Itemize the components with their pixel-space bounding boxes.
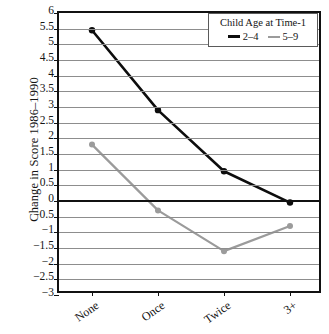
x-tick-label: 3+ <box>254 299 299 334</box>
plot-area <box>57 11 321 293</box>
y-tick-label: 5.5 <box>14 21 54 32</box>
x-tick-label: Twice <box>188 299 233 334</box>
gridline <box>59 107 319 108</box>
gridline <box>59 248 319 249</box>
y-tick-label: 4 <box>14 68 54 79</box>
legend-label: 2–4 <box>243 31 259 42</box>
gridline <box>59 76 319 77</box>
gridline <box>59 138 319 139</box>
x-tick-label: Once <box>122 299 167 334</box>
y-tick-mark <box>54 217 59 218</box>
y-tick-mark <box>54 44 59 45</box>
zero-gridline <box>59 200 319 202</box>
legend-title: Child Age at Time-1 <box>213 17 313 29</box>
y-tick-label: −1 <box>14 224 54 235</box>
y-tick-label: −2 <box>14 256 54 267</box>
legend-label: 5–9 <box>283 31 299 42</box>
gridline <box>59 170 319 171</box>
y-tick-mark <box>54 29 59 30</box>
y-tick-mark <box>54 185 59 186</box>
x-axis-tick-labels: NoneOnceTwice3+ <box>57 293 321 334</box>
y-tick-label: 0 <box>14 193 54 204</box>
y-tick-mark <box>54 170 59 171</box>
y-tick-label: 3 <box>14 99 54 110</box>
data-point-marker <box>221 248 227 254</box>
line-chart: Change in Score 1986–1990 65.554.543.532… <box>0 0 329 334</box>
y-tick-mark <box>54 60 59 61</box>
plot-inner <box>59 13 319 291</box>
legend-entry: 2–4 <box>228 31 259 42</box>
gridline <box>59 91 319 92</box>
gridline <box>59 154 319 155</box>
y-tick-label: 4.5 <box>14 52 54 63</box>
gridline <box>59 185 319 186</box>
gridline <box>59 232 319 233</box>
series-line <box>92 145 290 252</box>
y-axis-tick-labels: 65.554.543.532.521.510.50−0.5−1−1.5−2−2.… <box>14 11 54 293</box>
legend-swatch-icon <box>268 36 280 38</box>
y-tick-label: 1 <box>14 162 54 173</box>
y-tick-mark <box>54 154 59 155</box>
legend: Child Age at Time-1 2–45–9 <box>208 13 318 47</box>
y-tick-mark <box>54 232 59 233</box>
y-tick-mark <box>54 13 59 14</box>
data-point-marker <box>89 142 95 148</box>
y-tick-mark <box>54 138 59 139</box>
y-tick-label: 2.5 <box>14 115 54 126</box>
legend-entry: 5–9 <box>268 31 299 42</box>
gridline <box>59 217 319 218</box>
gridline <box>59 123 319 124</box>
data-point-marker <box>287 223 293 229</box>
legend-swatch-icon <box>228 35 240 38</box>
y-tick-mark <box>54 76 59 77</box>
y-tick-mark <box>54 91 59 92</box>
gridline <box>59 264 319 265</box>
y-tick-mark <box>54 264 59 265</box>
y-tick-label: 3.5 <box>14 83 54 94</box>
y-tick-label: −0.5 <box>14 209 54 220</box>
data-point-marker <box>155 207 161 213</box>
y-tick-mark <box>54 279 59 280</box>
y-tick-label: 1.5 <box>14 146 54 157</box>
series-line <box>92 30 290 202</box>
y-tick-label: 5 <box>14 36 54 47</box>
y-tick-label: 6 <box>14 5 54 16</box>
y-tick-mark <box>54 107 59 108</box>
y-tick-mark <box>54 201 59 202</box>
y-tick-mark <box>54 123 59 124</box>
y-tick-label: −1.5 <box>14 240 54 251</box>
y-tick-label: −2.5 <box>14 271 54 282</box>
gridline <box>59 60 319 61</box>
y-tick-label: 0.5 <box>14 177 54 188</box>
y-tick-label: −3 <box>14 287 54 298</box>
y-tick-label: 2 <box>14 130 54 141</box>
x-tick-label: None <box>56 299 101 334</box>
y-tick-mark <box>54 248 59 249</box>
legend-entries: 2–45–9 <box>213 31 313 42</box>
gridline <box>59 279 319 280</box>
